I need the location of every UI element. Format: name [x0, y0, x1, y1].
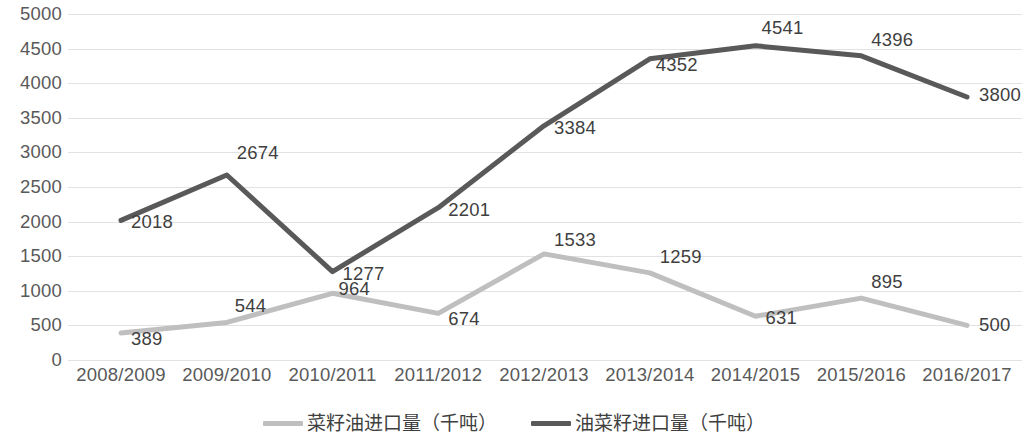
legend-item[interactable]: 油菜籽进口量（千吨）	[531, 414, 765, 433]
data-point-label: 674	[448, 310, 479, 329]
data-point-label: 2674	[237, 144, 279, 163]
x-axis-tick-labels: 2008/20092009/20102010/20112011/20122012…	[0, 366, 1027, 396]
data-point-label: 4541	[762, 19, 804, 38]
legend-item-label: 菜籽油进口量（千吨）	[307, 414, 497, 433]
data-point-label: 3800	[979, 86, 1021, 105]
legend-item-label: 油菜籽进口量（千吨）	[575, 414, 765, 433]
x-axis-tick-label: 2015/2016	[817, 366, 906, 385]
x-axis-tick-label: 2013/2014	[605, 366, 694, 385]
x-axis-tick-label: 2012/2013	[499, 366, 588, 385]
data-point-label: 1533	[554, 231, 596, 250]
legend-line-swatch-icon	[263, 421, 303, 426]
x-axis-tick-label: 2014/2015	[711, 366, 800, 385]
legend-line-swatch-icon	[531, 421, 571, 426]
data-point-label: 631	[766, 309, 797, 328]
data-point-label: 4396	[871, 31, 913, 50]
data-point-label: 2018	[131, 213, 173, 232]
data-point-label: 1259	[660, 248, 702, 267]
series-lines	[0, 0, 1027, 380]
chart-legend: 菜籽油进口量（千吨）油菜籽进口量（千吨）	[0, 405, 1027, 441]
x-axis-tick-label: 2010/2011	[289, 366, 377, 385]
x-axis-tick-label: 2016/2017	[922, 366, 1011, 385]
line-chart: 0500100015002000250030003500400045005000…	[0, 0, 1027, 441]
data-point-label: 500	[979, 316, 1010, 335]
data-point-label: 544	[235, 297, 266, 316]
series-line-1	[121, 254, 967, 333]
plot-area: 0500100015002000250030003500400045005000…	[0, 0, 1027, 380]
data-point-label: 1277	[343, 265, 385, 284]
data-point-label: 4352	[656, 56, 698, 75]
x-axis-tick-label: 2011/2012	[394, 366, 482, 385]
data-point-label: 389	[131, 330, 162, 349]
x-axis-tick-label: 2009/2010	[182, 366, 271, 385]
legend-item[interactable]: 菜籽油进口量（千吨）	[263, 414, 497, 433]
data-point-label: 895	[871, 273, 902, 292]
data-point-label: 3384	[554, 119, 596, 138]
data-point-label: 2201	[448, 201, 490, 220]
x-axis-tick-label: 2008/2009	[76, 366, 165, 385]
